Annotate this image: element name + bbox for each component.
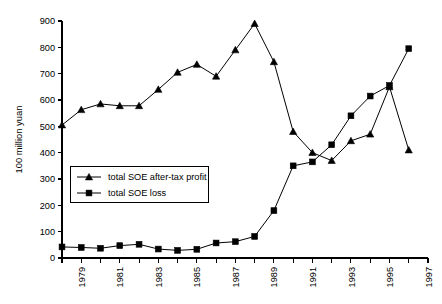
data-point bbox=[348, 113, 354, 119]
x-tick-label: 1981 bbox=[115, 267, 125, 287]
data-point bbox=[59, 244, 65, 250]
data-point bbox=[367, 93, 373, 99]
legend-label: total SOE loss bbox=[108, 188, 167, 198]
y-tick-label: 500 bbox=[40, 122, 55, 132]
data-point bbox=[387, 83, 393, 89]
data-point bbox=[136, 241, 142, 247]
data-point bbox=[155, 246, 161, 252]
x-tick-label: 1993 bbox=[347, 267, 357, 287]
y-tick-label: 0 bbox=[50, 253, 55, 263]
x-tick-label: 1991 bbox=[308, 267, 318, 287]
y-axis-title: 100 million yuan bbox=[13, 106, 24, 174]
y-tick-label: 300 bbox=[40, 174, 55, 184]
data-point bbox=[175, 247, 181, 253]
x-tick-label: 1995 bbox=[385, 267, 395, 287]
legend-marker-icon bbox=[86, 190, 92, 196]
data-point bbox=[97, 100, 104, 106]
data-point bbox=[367, 131, 374, 137]
data-point bbox=[329, 142, 335, 148]
x-axis: 1979198119831985198719891991199319951997 bbox=[62, 258, 434, 287]
legend-label: total SOE after-tax profit bbox=[108, 172, 207, 182]
data-point bbox=[251, 20, 258, 26]
chart-legend: total SOE after-tax profittotal SOE loss bbox=[70, 166, 208, 202]
x-tick-label: 1983 bbox=[154, 267, 164, 287]
y-tick-label: 200 bbox=[40, 201, 55, 211]
data-point bbox=[252, 234, 258, 240]
data-point bbox=[290, 163, 296, 169]
y-tick-label: 800 bbox=[40, 43, 55, 53]
series-2 bbox=[59, 46, 412, 254]
chart-container: 0100200300400500600700800900 19791981198… bbox=[0, 0, 442, 304]
data-point bbox=[232, 239, 238, 245]
x-tick-label: 1997 bbox=[424, 267, 434, 287]
series-1 bbox=[58, 20, 412, 163]
data-point bbox=[290, 128, 297, 134]
data-point bbox=[117, 243, 123, 249]
y-tick-label: 600 bbox=[40, 95, 55, 105]
data-point bbox=[271, 208, 277, 214]
data-point bbox=[98, 245, 104, 251]
data-series-group bbox=[58, 20, 412, 253]
data-point bbox=[174, 69, 181, 75]
y-tick-label: 400 bbox=[40, 148, 55, 158]
x-tick-label: 1985 bbox=[192, 267, 202, 287]
y-tick-label: 100 bbox=[40, 227, 55, 237]
y-axis: 0100200300400500600700800900 bbox=[40, 16, 62, 263]
data-point bbox=[270, 58, 277, 64]
y-tick-label: 900 bbox=[40, 16, 55, 26]
series-line-1 bbox=[62, 24, 409, 161]
x-tick-label: 1987 bbox=[231, 267, 241, 287]
series-line-2 bbox=[62, 49, 409, 251]
data-point bbox=[310, 159, 316, 165]
x-tick-label: 1979 bbox=[77, 267, 87, 287]
data-point bbox=[213, 240, 219, 246]
data-point bbox=[193, 61, 200, 67]
x-tick-label: 1989 bbox=[269, 267, 279, 287]
y-axis-title-text: 100 million yuan bbox=[13, 106, 24, 174]
data-point bbox=[194, 246, 200, 252]
data-point bbox=[405, 146, 412, 152]
line-chart: 0100200300400500600700800900 19791981198… bbox=[0, 0, 442, 304]
data-point bbox=[406, 46, 412, 52]
data-point bbox=[78, 245, 84, 251]
y-tick-label: 700 bbox=[40, 69, 55, 79]
